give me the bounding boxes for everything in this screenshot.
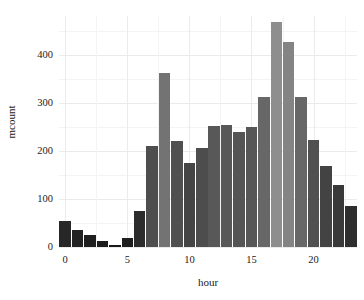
- plot-panel: [59, 16, 357, 247]
- bar: [258, 97, 269, 247]
- y-tick-label: 0: [48, 242, 53, 253]
- x-axis-title: hour: [59, 276, 357, 288]
- x-tick-label: 5: [125, 255, 130, 266]
- x-tick-label: 20: [308, 255, 319, 266]
- bar: [345, 206, 356, 247]
- gridline-major-horizontal: [59, 247, 357, 248]
- bar: [221, 125, 232, 247]
- y-tick-label: 200: [37, 146, 53, 157]
- bar: [122, 238, 133, 247]
- x-axis-tick-labels: 05101520: [59, 255, 357, 269]
- x-tick-label: 0: [63, 255, 68, 266]
- y-tick-label: 300: [37, 98, 53, 109]
- bar: [295, 97, 306, 247]
- bar: [184, 163, 195, 247]
- bar: [59, 221, 70, 247]
- bar: [72, 230, 83, 247]
- y-tick-label: 100: [37, 194, 53, 205]
- bar: [333, 185, 344, 247]
- bar: [308, 140, 319, 247]
- bar: [283, 42, 294, 247]
- bar: [171, 141, 182, 247]
- bar: [146, 146, 157, 247]
- bar: [271, 22, 282, 247]
- bar-chart: 0100200300400 05101520 hour mcount: [0, 0, 364, 300]
- bar: [134, 211, 145, 247]
- bar: [320, 166, 331, 247]
- bar: [84, 235, 95, 247]
- y-tick-label: 400: [37, 50, 53, 61]
- bar: [208, 126, 219, 248]
- bars-series: [59, 16, 357, 247]
- bar: [246, 127, 257, 247]
- bar: [196, 148, 207, 247]
- bar: [159, 73, 170, 247]
- x-tick-label: 15: [246, 255, 257, 266]
- x-tick-label: 10: [184, 255, 195, 266]
- bar: [97, 241, 108, 247]
- bar: [233, 132, 244, 247]
- y-axis-title: mcount: [5, 82, 17, 162]
- bar: [109, 245, 120, 247]
